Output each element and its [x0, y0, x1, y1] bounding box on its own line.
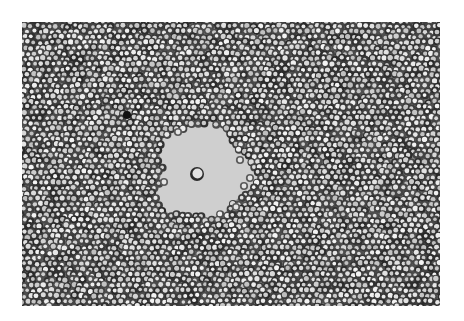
micrograph-image [0, 0, 464, 321]
